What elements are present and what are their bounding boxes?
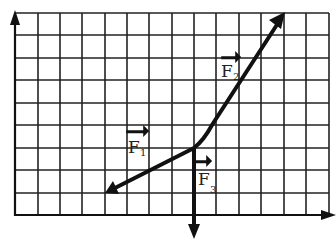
axes <box>10 10 336 220</box>
f3-label-sub: 3 <box>210 184 216 195</box>
f1-label-sub: 1 <box>140 147 146 158</box>
label-f1: F 1 <box>127 127 148 158</box>
label-f2: F 2 <box>221 53 240 82</box>
f1-vector-bar-icon <box>127 127 148 135</box>
f3-arrowhead-icon <box>188 224 200 239</box>
f3-vector-bar-icon <box>195 157 211 165</box>
f2-label-sub: 2 <box>233 71 239 82</box>
label-f3: F 3 <box>195 157 216 195</box>
f3-label-main: F <box>198 169 210 189</box>
grid <box>15 13 329 215</box>
f1-label-main: F <box>128 137 140 157</box>
force-diagram: F 2 F 1 F 3 <box>0 0 336 248</box>
f2-label-main: F <box>221 61 233 81</box>
f2-vector-bar-icon <box>222 53 240 61</box>
